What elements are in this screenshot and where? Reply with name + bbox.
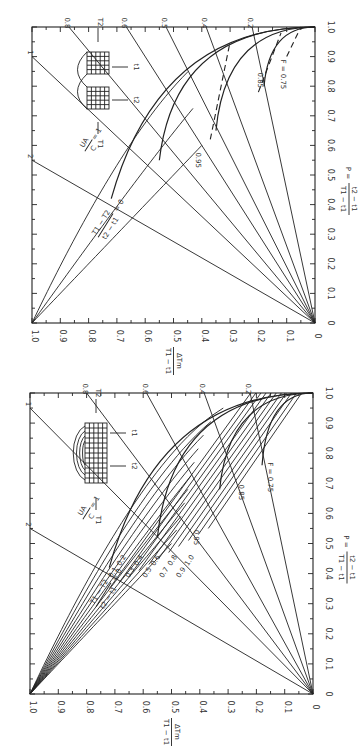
ua-line-label: 0.8 <box>81 383 89 394</box>
ratio-value-label: 0.9 <box>175 566 188 580</box>
f-label: 0.85 <box>237 485 245 501</box>
chart-1: 1.00.90.80.70.60.50.40.30.20.1000.10.20.… <box>26 17 358 375</box>
y-tick-label: 0.7 <box>115 330 124 343</box>
exchanger-schematic: T1T2t1t2 <box>73 388 138 525</box>
y-axis-label: ΔTmT1 − t1 <box>162 718 181 746</box>
f-label: 0.95 <box>194 152 202 168</box>
y-tick-label: 0 <box>313 333 322 338</box>
hatch-line <box>139 393 266 571</box>
x-tick-label: 0.5 <box>326 169 335 182</box>
x-tick-label: 1.0 <box>326 21 335 34</box>
label-T1: T1 <box>94 515 102 525</box>
ua-line-label: 0.2 <box>244 383 252 394</box>
y-tick-label: 0.4 <box>198 701 207 714</box>
dashed-line <box>210 42 230 140</box>
y-tick-label: 0.3 <box>226 701 235 714</box>
ua-label-eq: = 1 <box>88 495 101 510</box>
f-curve-2 <box>262 393 313 465</box>
x-tick-label: 0.4 <box>324 567 333 580</box>
y-axis-label: ΔTmT1 − t1 <box>164 347 183 375</box>
y-tick-label: 1.0 <box>28 701 37 714</box>
label-T1: T1 <box>96 139 104 149</box>
ua-line-label: 0.6 <box>120 17 128 29</box>
y-axis-label-den: T1 − t1 <box>164 347 172 374</box>
x-tick-label: 0.8 <box>324 447 333 460</box>
ua-line-label: 1 <box>24 402 32 406</box>
ua-line-label: 0.4 <box>200 17 208 29</box>
ua-line <box>166 27 315 323</box>
ratio-value-label: 0.7 <box>158 566 171 580</box>
y-tick-label: 0.8 <box>85 701 94 714</box>
y-tick-label: 0.7 <box>113 701 122 714</box>
y-tick-label: 0.6 <box>143 330 152 343</box>
x-axis-label: P =t2 − t1T1 − t1 <box>339 167 358 215</box>
x-tick-label: 0.7 <box>326 109 335 122</box>
f-label: F = 0.75 <box>266 462 274 492</box>
x-tick-label: 0.3 <box>324 597 333 610</box>
ratio-line-1 <box>32 145 202 323</box>
y-tick-label: 0.3 <box>228 330 237 343</box>
x-tick-label: 0.1 <box>326 287 335 300</box>
ratio-label-eq: = 0 <box>112 198 125 213</box>
x-tick-label: 0.2 <box>324 627 333 640</box>
ua-line <box>32 160 315 323</box>
label-t2: t2 <box>132 96 140 103</box>
x-tick-label: 0.9 <box>324 417 333 430</box>
ua-label-num: UA <box>78 136 90 149</box>
f-curve-2 <box>264 27 315 86</box>
y-tick-label: 0.9 <box>58 330 67 343</box>
return-bend <box>78 74 88 109</box>
label-T2: T2 <box>94 388 102 398</box>
x-axis-label-den: T1 − t1 <box>337 553 345 580</box>
f-label: 0.95 <box>192 530 200 546</box>
chart-2: 1.00.90.80.70.60.50.40.30.20.1000.10.20.… <box>24 383 356 746</box>
x-tick-label: 0.4 <box>326 198 335 211</box>
ratio-line-0.5 <box>32 108 193 323</box>
x-axis-label-p: P = <box>342 535 350 547</box>
ua-line <box>30 408 313 694</box>
label-T2: T2 <box>96 17 104 27</box>
x-tick-label: 0 <box>324 691 333 696</box>
f-label: 0.85 <box>256 72 264 88</box>
ua-label-num: UA <box>76 504 88 517</box>
x-tick-label: 0.8 <box>326 80 335 93</box>
label-t1: t1 <box>130 429 138 436</box>
x-axis-label-num: t2 − t1 <box>348 555 356 580</box>
x-axis-label: P =t2 − t1T1 − t1 <box>337 535 356 583</box>
ratio-value-label: 0.4 <box>132 553 145 567</box>
x-tick-label: 0 <box>326 320 335 325</box>
x-axis-label-den: T1 − t1 <box>339 185 347 212</box>
x-tick-label: 0.6 <box>326 139 335 152</box>
ratio-line-0 <box>32 71 188 323</box>
y-tick-label: 0.2 <box>256 330 265 343</box>
y-axis-label-den: T1 − t1 <box>162 718 170 745</box>
y-tick-label: 0.9 <box>56 701 65 714</box>
x-axis-label-num: t2 − t1 <box>350 187 358 212</box>
label-t1: t1 <box>132 63 140 70</box>
ua-line-label: 0.2 <box>246 17 254 28</box>
x-tick-label: 0.2 <box>326 257 335 270</box>
ua-line <box>204 393 313 694</box>
return-bend <box>78 52 88 87</box>
y-tick-label: 0.1 <box>285 330 294 343</box>
x-tick-label: 0.6 <box>324 507 333 520</box>
ua-line-label: 2 <box>26 154 34 158</box>
y-tick-label: 0.6 <box>141 701 150 714</box>
figure: 1.00.90.80.70.60.50.40.30.20.1000.10.20.… <box>0 0 360 749</box>
y-tick-label: 0 <box>311 704 320 709</box>
y-axis-label-num: ΔTm <box>175 353 183 369</box>
ua-line-label: 0.5 <box>160 17 168 28</box>
ua-line-label: 0.6 <box>141 383 149 395</box>
ua-line-label: 2 <box>24 522 32 526</box>
ratio-label: T1 − T2t2 − t1= 0 <box>90 195 130 243</box>
y-tick-label: 0.8 <box>87 330 96 343</box>
x-tick-label: 0.3 <box>326 228 335 241</box>
ua-line <box>32 57 315 323</box>
x-tick-label: 1.0 <box>324 387 333 400</box>
y-tick-label: 0.4 <box>200 330 209 343</box>
ratio-value-label: 1.0 <box>183 554 196 568</box>
x-axis-label-p: P = <box>344 167 352 179</box>
ratio-value-label: 0.8 <box>166 554 179 568</box>
ua-line-label: 0.8 <box>63 17 71 28</box>
hatch-line <box>208 393 301 528</box>
